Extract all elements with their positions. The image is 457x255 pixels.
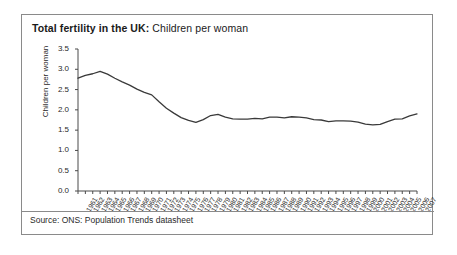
source-note: Source: ONS: Population Trends datasheet — [30, 215, 193, 225]
y-tick-label: 3.0 — [47, 64, 69, 73]
y-tick-label: 2.5 — [47, 85, 69, 94]
source-divider — [22, 211, 434, 212]
y-tick-label: 0.5 — [47, 166, 69, 175]
y-tick-label: 3.5 — [47, 44, 69, 53]
y-tick-label: 1.0 — [47, 145, 69, 154]
plot-area: Children per woman 0.00.51.01.52.02.53.0… — [22, 15, 434, 236]
y-tick-label: 0.0 — [47, 186, 69, 195]
y-tick-label: 2.0 — [47, 105, 69, 114]
chart-figure: Total fertility in the UK: Children per … — [21, 14, 433, 235]
y-tick-label: 1.5 — [47, 125, 69, 134]
